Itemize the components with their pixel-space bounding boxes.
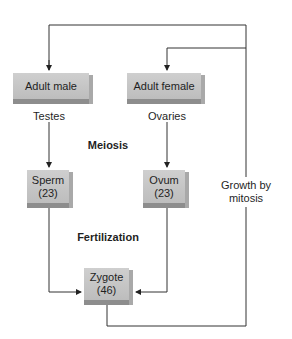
box-side — [89, 75, 93, 104]
ovum-count: (23) — [154, 187, 174, 200]
box-bottom — [143, 203, 185, 208]
growth-line-2: mitosis — [218, 192, 274, 205]
box-bottom — [127, 99, 201, 104]
life-cycle-diagram: Adult male Testes Adult female Ovaries M… — [0, 0, 292, 339]
box-face: Ovum (23) — [143, 170, 185, 203]
box-face: Adult male — [13, 73, 89, 99]
adult-female-label: Adult female — [133, 80, 194, 93]
box-side — [129, 270, 133, 305]
sperm-node: Sperm (23) — [27, 170, 73, 208]
adult-male-label: Adult male — [25, 80, 77, 93]
box-face: Adult female — [127, 73, 201, 99]
zygote-name: Zygote — [90, 271, 124, 284]
box-side — [185, 172, 189, 208]
zygote-node: Zygote (46) — [84, 268, 133, 305]
ovum-node: Ovum (23) — [143, 170, 189, 208]
zygote-count: (46) — [97, 284, 117, 297]
growth-line-1: Growth by — [218, 179, 274, 192]
ovaries-label: Ovaries — [139, 110, 195, 122]
fertilization-label: Fertilization — [76, 231, 140, 243]
meiosis-label: Meiosis — [86, 139, 130, 151]
sperm-name: Sperm — [32, 174, 64, 187]
testes-label: Testes — [24, 110, 74, 122]
sperm-count: (23) — [38, 187, 58, 200]
growth-by-mitosis-label: Growth by mitosis — [218, 177, 274, 207]
box-bottom — [84, 300, 129, 305]
ovum-name: Ovum — [149, 174, 178, 187]
box-face: Zygote (46) — [84, 268, 129, 300]
adult-male-node: Adult male — [13, 73, 93, 104]
adult-female-node: Adult female — [127, 73, 205, 104]
box-bottom — [13, 99, 89, 104]
box-face: Sperm (23) — [27, 170, 69, 203]
box-side — [69, 172, 73, 208]
box-bottom — [27, 203, 69, 208]
box-side — [201, 75, 205, 104]
